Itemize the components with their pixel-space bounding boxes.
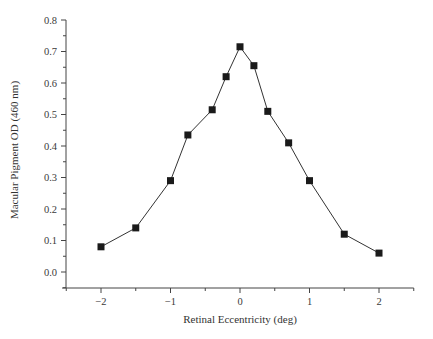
data-point-marker [250, 62, 257, 69]
data-point-marker [167, 177, 174, 184]
x-tick-label: 1 [307, 296, 312, 307]
y-tick-label: 0.0 [44, 267, 57, 278]
x-axis-title: Retinal Eccentricity (deg) [183, 313, 297, 326]
data-point-marker [184, 131, 191, 138]
data-point-marker [306, 177, 313, 184]
y-tick-label: 0.3 [44, 172, 57, 183]
data-point-marker [209, 106, 216, 113]
data-point-marker [264, 108, 271, 115]
data-point-marker [376, 250, 383, 257]
x-tick-label: 2 [376, 296, 381, 307]
data-point-marker [285, 139, 292, 146]
y-tick-label: 0.5 [44, 109, 57, 120]
data-point-marker [98, 243, 105, 250]
x-axis: −2−1012 [62, 288, 414, 307]
data-point-marker [223, 73, 230, 80]
plot-area [98, 43, 383, 256]
y-tick-label: 0.1 [44, 235, 57, 246]
data-point-marker [237, 43, 244, 50]
x-tick-label: −2 [95, 296, 106, 307]
chart: 0.00.10.20.30.40.50.60.70.8 −2−1012 Reti… [0, 0, 433, 339]
y-tick-label: 0.4 [44, 141, 58, 152]
x-tick-label: −1 [165, 296, 176, 307]
y-tick-label: 0.8 [44, 15, 57, 26]
x-tick-label: 0 [237, 296, 242, 307]
y-tick-label: 0.6 [44, 78, 57, 89]
data-point-marker [341, 231, 348, 238]
series-line [101, 47, 379, 253]
data-point-marker [132, 224, 139, 231]
y-tick-label: 0.7 [44, 46, 57, 57]
y-axis: 0.00.10.20.30.40.50.60.70.8 [44, 15, 66, 289]
y-axis-title: Macular Pigment OD (460 nm) [8, 81, 21, 219]
y-tick-label: 0.2 [44, 204, 57, 215]
